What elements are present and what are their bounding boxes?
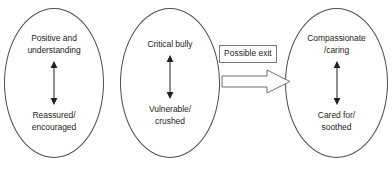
node-compassionate-caring: Compassionate /caring Cared for/ soothed: [285, 8, 388, 158]
node-critical-bottom-label: Vulnerable/ crushed: [149, 104, 191, 127]
node-compassionate-bottom-label: Cared for/ soothed: [318, 110, 355, 133]
node-positive-understanding: Positive and understanding Reassured/ en…: [4, 8, 104, 158]
node-positive-top-label: Positive and understanding: [27, 33, 80, 56]
possible-exit-transition: Possible exit: [218, 45, 292, 95]
right-block-arrow-icon: [221, 69, 291, 94]
double-headed-arrow-icon: [331, 61, 343, 105]
double-headed-arrow-icon: [164, 55, 176, 99]
double-headed-arrow-icon: [48, 61, 60, 105]
diagram-canvas: Positive and understanding Reassured/ en…: [0, 0, 392, 176]
node-compassionate-top-label: Compassionate /caring: [307, 33, 365, 56]
node-critical-bully: Critical bully Vulnerable/ crushed: [120, 8, 220, 158]
possible-exit-label: Possible exit: [219, 45, 277, 63]
node-positive-bottom-label: Reassured/ encouraged: [32, 110, 76, 133]
node-critical-top-label: Critical bully: [147, 39, 192, 51]
